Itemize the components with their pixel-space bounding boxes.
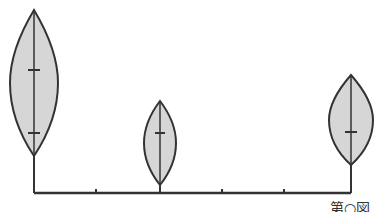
spindle-middle bbox=[144, 101, 176, 193]
spindle-diagram bbox=[0, 0, 388, 212]
spindle-left bbox=[10, 10, 58, 193]
spindle-right bbox=[329, 75, 373, 193]
figure-caption: 第○図 bbox=[330, 201, 370, 212]
